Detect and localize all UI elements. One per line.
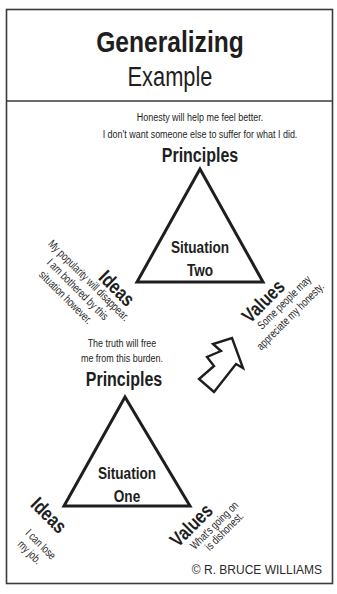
situation-one-principles-heading: Principles [86, 368, 162, 390]
situation-one-principles-line1: The truth will free [88, 337, 157, 349]
situation-one-principles-line2: me from this burden. [81, 352, 163, 364]
header: Generalizing Example [96, 25, 244, 92]
up-right-arrow-icon [199, 338, 243, 392]
copyright-notice: © R. BRUCE WILLIAMS [192, 563, 322, 577]
situation-two-principles-heading: Principles [162, 144, 238, 166]
situation-two-principles-line1: Honesty will help me feel better. [137, 111, 263, 123]
situation-two-label-line2: Two [187, 261, 213, 280]
situation-one-label-line1: Situation [98, 464, 156, 483]
situation-two-group: Honesty will help me feel better. I don'… [37, 111, 327, 352]
situation-two-principles-line2: I don't want someone else to suffer for … [103, 128, 298, 140]
page-title: Generalizing [96, 25, 244, 59]
generalizing-diagram: Generalizing Example Honesty will help m… [0, 0, 337, 594]
situation-two-label-line1: Situation [171, 238, 229, 257]
page-subtitle: Example [128, 60, 213, 91]
situation-one-label-line2: One [114, 487, 141, 506]
